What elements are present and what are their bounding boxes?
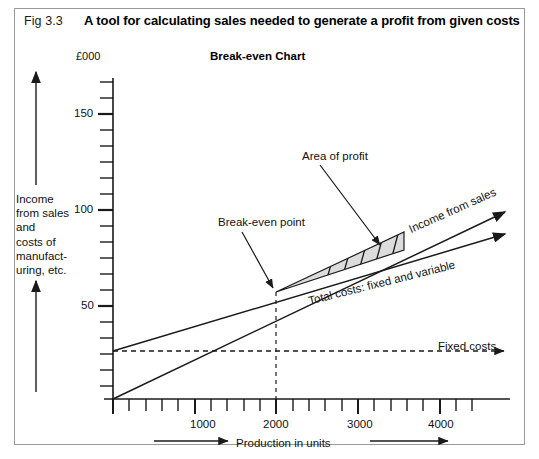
total-costs-line	[113, 234, 505, 351]
income-from-sales-line	[113, 212, 505, 399]
figure-page: Fig 3.3 A tool for calculating sales nee…	[0, 0, 539, 459]
area-of-profit-leader-arrow	[320, 165, 380, 245]
break-even-leader-arrow	[242, 232, 273, 288]
x-axis-ticks	[113, 399, 472, 414]
chart-graphics	[0, 0, 539, 459]
y-axis-ticks	[98, 82, 113, 386]
